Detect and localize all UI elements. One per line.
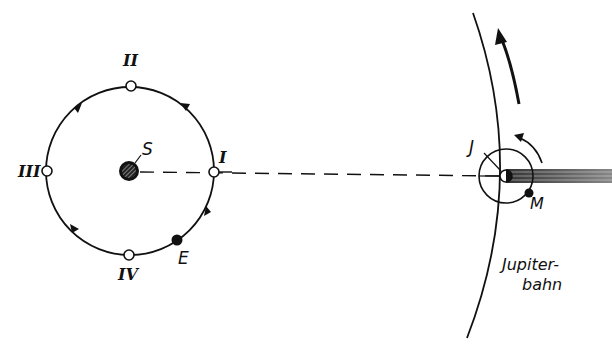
jupiter-orbit-label-1: Jupiter- xyxy=(499,255,559,274)
earth xyxy=(172,235,183,246)
diagram-canvas: S I II III IV E J M Jupite xyxy=(0,0,612,349)
moon-label: M xyxy=(530,194,544,213)
position-III xyxy=(42,166,52,176)
jupiter-pointer xyxy=(484,153,501,171)
position-II-label: II xyxy=(122,51,138,70)
sun xyxy=(119,155,141,181)
jupiter xyxy=(500,170,512,182)
position-IV-label: IV xyxy=(117,265,139,284)
orbit-diagram: S I II III IV E J M Jupite xyxy=(0,0,612,349)
earth-label: E xyxy=(178,248,189,268)
jupiter-label: J xyxy=(466,137,474,157)
position-I xyxy=(209,167,232,177)
position-IV xyxy=(124,250,134,260)
position-I-label: I xyxy=(218,148,227,167)
sun-jupiter-line xyxy=(140,172,500,176)
position-II xyxy=(126,81,136,91)
sun-label: S xyxy=(142,139,153,159)
position-III-label: III xyxy=(17,162,41,181)
orbit-direction-arrows xyxy=(70,103,211,233)
jupiter-direction-arrow xyxy=(495,28,519,104)
jupiter-orbit-label-2: bahn xyxy=(522,275,562,294)
moon-direction-arrow xyxy=(514,133,542,163)
